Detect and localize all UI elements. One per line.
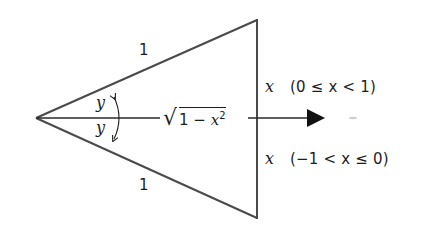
label-right-upper: x (0 ≤ x < 1) [265, 79, 376, 95]
right-lower-var: x [265, 149, 274, 168]
sqrt-radicand: 1 − x2 [179, 107, 226, 129]
arrowhead-icon [307, 109, 325, 127]
scan-smudge [349, 117, 357, 119]
right-lower-condition: (−1 < x ≤ 0) [290, 150, 389, 168]
label-right-lower: x (−1 < x ≤ 0) [265, 151, 389, 167]
sqrt-sign-icon: √ [163, 105, 177, 130]
triangle-side-bottom [36, 118, 257, 218]
label-bottom-side: 1 [139, 178, 149, 193]
label-angle-lower: y [96, 120, 105, 136]
radicand-prefix: 1 − [179, 111, 211, 129]
label-top-side: 1 [139, 43, 149, 58]
label-angle-upper: y [96, 95, 105, 111]
radicand-exponent: 2 [219, 110, 225, 121]
right-upper-condition: (0 ≤ x < 1) [290, 78, 376, 96]
triangle-diagram: 1 1 y y √ 1 − x2 x (0 ≤ x < 1) x (−1 < x… [0, 0, 437, 245]
triangle-side-top [36, 20, 257, 118]
right-upper-var: x [265, 77, 274, 96]
radicand-var: x [211, 111, 219, 129]
